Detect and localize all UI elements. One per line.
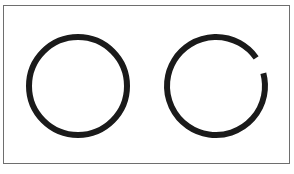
open-circle-arc (167, 37, 265, 135)
figure-canvas (0, 0, 294, 174)
closed-circle (29, 37, 127, 135)
